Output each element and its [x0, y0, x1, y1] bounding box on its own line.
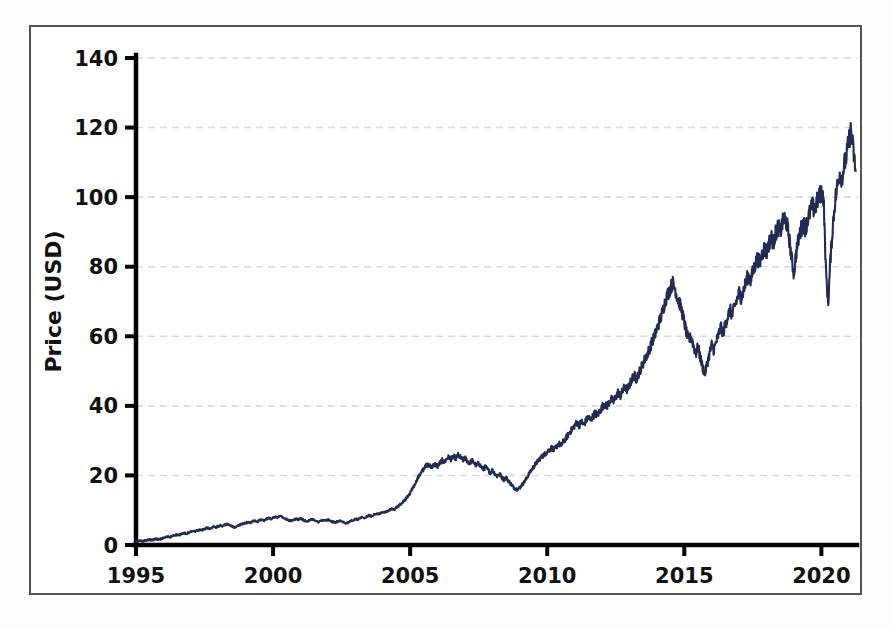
y-axis-title-group: Price (USD) — [41, 230, 66, 372]
x-tick-labels-group: 199520002005201020152020 — [107, 564, 851, 588]
series-group — [136, 123, 856, 542]
x-tick-label: 1995 — [107, 564, 165, 588]
y-tick-label: 80 — [89, 255, 118, 279]
y-tick-labels-group: 020406080100120140 — [74, 47, 118, 558]
axis-lines-group — [134, 55, 857, 545]
price-line-chart: 199520002005201020152020 020406080100120… — [31, 27, 860, 593]
chart-frame-border: 199520002005201020152020 020406080100120… — [29, 25, 862, 595]
x-tick-label: 2020 — [792, 564, 850, 588]
y-tick-label: 60 — [89, 325, 118, 349]
y-tick-label: 40 — [89, 394, 118, 418]
y-tick-label: 120 — [74, 116, 118, 140]
figure-root: 199520002005201020152020 020406080100120… — [0, 0, 893, 627]
y-axis-title: Price (USD) — [41, 230, 66, 372]
y-tick-label: 100 — [74, 186, 118, 210]
tick-marks-group — [125, 58, 821, 556]
series-line-0 — [136, 123, 856, 542]
x-tick-label: 2000 — [244, 564, 302, 588]
x-tick-label: 2005 — [381, 564, 439, 588]
gridlines-group — [136, 58, 857, 475]
y-tick-label: 20 — [89, 464, 118, 488]
x-tick-label: 2010 — [518, 564, 576, 588]
y-tick-label: 0 — [103, 534, 118, 558]
x-tick-label: 2015 — [655, 564, 713, 588]
y-tick-label: 140 — [74, 47, 118, 71]
